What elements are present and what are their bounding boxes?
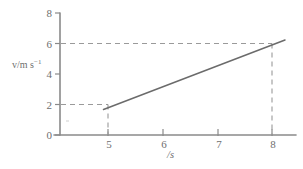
y-axis-title-exponent: −1 [34, 58, 41, 66]
y-axis-title-text: v/m s [12, 59, 34, 70]
ytick-label-6: 6 [38, 39, 52, 50]
velocity-time-graph: 8 6 4 2 0 5 6 7 8 v/m s−1 /s [0, 0, 303, 169]
xtick-label-8: 8 [268, 139, 278, 150]
y-axis-title: v/m s−1 [12, 59, 41, 70]
ytick-label-2: 2 [38, 100, 52, 111]
xtick-label-7: 7 [214, 139, 224, 150]
ytick-label-0: 0 [38, 130, 52, 141]
velocity-line [104, 40, 286, 110]
ytick-label-4: 4 [38, 69, 52, 80]
xtick-label-5: 5 [104, 139, 114, 150]
plot-canvas [0, 0, 303, 169]
x-axis-title: /s [167, 150, 174, 161]
ytick-label-8: 8 [38, 8, 52, 19]
